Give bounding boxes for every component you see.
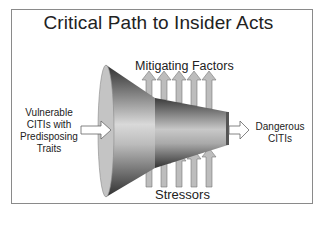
input-label-line: Traits — [14, 143, 84, 155]
mitigating-factors-label: Mitigating Factors — [135, 60, 234, 72]
input-label-line: Predisposing — [14, 131, 84, 143]
output-label: Dangerous CITIs — [252, 121, 308, 145]
input-label-line: Vulnerable — [14, 107, 84, 119]
output-arrow — [229, 121, 249, 139]
input-label: Vulnerable CITIs with Predisposing Trait… — [14, 107, 84, 155]
stressors-label: Stressors — [155, 189, 210, 201]
input-label-line: CITIs with — [14, 119, 84, 131]
output-label-line: CITIs — [252, 133, 308, 145]
output-label-line: Dangerous — [252, 121, 308, 133]
